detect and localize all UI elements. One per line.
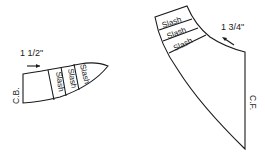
arrow-right-icon (27, 64, 40, 68)
center-back-label: C.B. (11, 87, 21, 104)
left-pattern-piece: Slash Slash Slash C.B. 1 1/2" (11, 48, 108, 104)
measure-label-right: 1 3/4" (221, 22, 244, 32)
center-front-label: C.F. (248, 95, 258, 110)
arrow-left-icon (222, 37, 234, 45)
pattern-diagram: Slash Slash Slash C.B. 1 1/2" Slash Slas… (0, 0, 265, 156)
right-pattern-piece: Slash Slash Slash C.F. 1 3/4" (155, 6, 258, 149)
measure-label-left: 1 1/2" (20, 48, 43, 58)
